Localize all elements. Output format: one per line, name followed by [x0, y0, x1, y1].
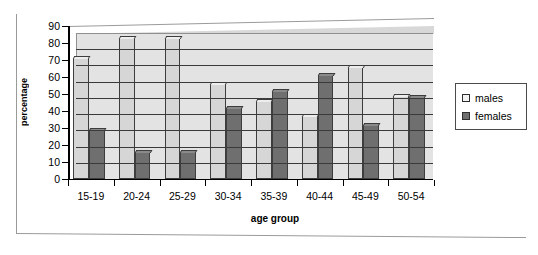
y-tick-mark — [62, 162, 68, 163]
bar-females-25-29 — [180, 152, 196, 179]
bar-top-cap — [363, 123, 380, 126]
y-tick-label: 30 — [36, 123, 60, 134]
y-tick-label: 90 — [36, 21, 60, 32]
bar-face — [363, 125, 379, 179]
y-tick-label: 60 — [36, 72, 60, 83]
legend-swatch-females-icon — [462, 112, 470, 120]
bar-top-cap — [272, 89, 289, 92]
x-tick-mark — [68, 180, 69, 186]
y-tick-label: 10 — [36, 157, 60, 168]
bar-top-cap — [256, 99, 273, 102]
bar-top-cap — [165, 36, 182, 39]
bar-face — [302, 116, 318, 179]
chart-page: percentage 9080706050403020100 15-1920-2… — [0, 0, 538, 255]
legend-label-males: males — [475, 92, 503, 104]
gridline — [76, 130, 433, 131]
x-tick-mark — [205, 180, 206, 186]
x-tick-mark — [114, 180, 115, 186]
gridline — [76, 82, 433, 83]
bar-face — [409, 97, 425, 179]
x-tick-mark — [434, 180, 435, 186]
bar-face — [119, 38, 135, 179]
bar-females-35-39 — [272, 91, 288, 179]
x-tick-label: 45-49 — [343, 190, 389, 202]
bar-females-50-54 — [409, 97, 425, 179]
bar-top-cap — [135, 150, 152, 153]
bar-face — [73, 58, 89, 179]
bar-face — [135, 152, 151, 179]
y-tick-mark — [62, 77, 68, 78]
bar-top-cap — [318, 73, 335, 76]
y-tick-label: 20 — [36, 140, 60, 151]
y-tick-label: 50 — [36, 89, 60, 100]
bar-top-cap — [226, 106, 243, 109]
x-axis-tick-labels: 15-1920-2425-2930-3435-3940-4445-4950-54 — [68, 190, 434, 206]
y-tick-label: 40 — [36, 106, 60, 117]
gridline — [76, 147, 433, 148]
y-tick-mark — [62, 94, 68, 95]
y-tick-label: 80 — [36, 38, 60, 49]
x-tick-mark — [251, 180, 252, 186]
bar-face — [180, 152, 196, 179]
y-tick-mark — [62, 145, 68, 146]
legend-item-males: males — [462, 89, 526, 107]
x-tick-label: 35-39 — [251, 190, 297, 202]
y-tick-label: 0 — [36, 174, 60, 185]
page-frame-bottom-border — [16, 233, 526, 238]
bar-females-45-49 — [363, 125, 379, 179]
x-tick-label: 15-19 — [68, 190, 114, 202]
gridline — [76, 65, 433, 66]
x-tick-mark — [388, 180, 389, 186]
x-axis-title: age group — [0, 213, 538, 224]
y-tick-mark — [62, 111, 68, 112]
y-tick-mark — [62, 128, 68, 129]
bar-top-cap — [180, 150, 197, 153]
bar-face — [256, 101, 272, 179]
bar-males-50-54 — [393, 96, 409, 179]
x-tick-label: 25-29 — [160, 190, 206, 202]
bar-females-15-19 — [89, 130, 105, 179]
y-tick-mark — [62, 26, 68, 27]
page-frame-left-border — [16, 14, 17, 234]
bar-face — [393, 96, 409, 179]
x-tick-label: 30-34 — [205, 190, 251, 202]
gridline — [76, 49, 433, 50]
gridline — [76, 163, 433, 164]
bar-males-40-44 — [302, 116, 318, 179]
bar-top-cap — [119, 36, 136, 39]
bar-face — [165, 38, 181, 179]
legend-swatch-males-icon — [462, 94, 470, 102]
x-tick-mark — [160, 180, 161, 186]
x-tick-mark — [297, 180, 298, 186]
x-tick-label: 40-44 — [297, 190, 343, 202]
y-axis-tick-labels: 9080706050403020100 — [36, 21, 60, 185]
legend-item-females: females — [462, 107, 526, 125]
y-tick-mark — [62, 43, 68, 44]
y-axis-title: percentage — [19, 62, 33, 142]
gridline — [76, 114, 433, 115]
bar-top-cap — [73, 56, 90, 59]
bar-females-20-24 — [135, 152, 151, 179]
y-tick-label: 70 — [36, 55, 60, 66]
bar-males-25-29 — [165, 38, 181, 179]
x-tick-label: 50-54 — [388, 190, 434, 202]
bar-males-20-24 — [119, 38, 135, 179]
bar-face — [226, 108, 242, 179]
gridline — [76, 98, 433, 99]
x-tick-label: 20-24 — [114, 190, 160, 202]
bar-males-35-39 — [256, 101, 272, 179]
legend-label-females: females — [475, 110, 512, 122]
bar-face — [272, 91, 288, 179]
bar-top-cap — [393, 94, 410, 97]
bar-females-30-34 — [226, 108, 242, 179]
x-tick-mark — [343, 180, 344, 186]
bar-face — [89, 130, 105, 179]
bar-males-15-19 — [73, 58, 89, 179]
chart-legend: males females — [455, 83, 527, 130]
y-tick-mark — [62, 60, 68, 61]
